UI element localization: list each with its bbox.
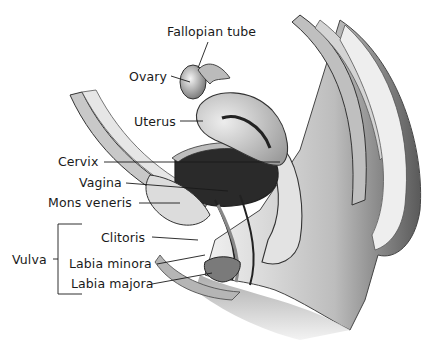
label-clitoris: Clitoris [101,230,145,245]
label-ovary: Ovary [129,69,167,84]
label-mons-veneris: Mons veneris [48,195,132,210]
label-cervix: Cervix [58,154,98,169]
anatomy-illustration [0,0,440,342]
label-labia-majora: Labia majora [71,276,154,291]
label-uterus: Uterus [134,114,176,129]
anatomy-diagram: Fallopian tube Ovary Uterus Cervix Vagin… [0,0,440,342]
label-vulva: Vulva [12,252,47,267]
label-fallopian-tube: Fallopian tube [167,24,256,39]
label-labia-minora: Labia minora [69,256,152,271]
label-vagina: Vagina [79,175,122,190]
